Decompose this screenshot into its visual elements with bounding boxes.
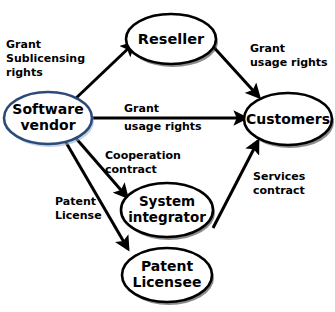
edge-label-vendor-to-customers-line2: usage rights	[124, 120, 202, 133]
edge-label-vendor-to-reseller-line2: Sublicensing	[6, 52, 85, 65]
edge-label-system-integrator-to-customers: Services contract	[253, 170, 306, 197]
edge-label-vendor-to-system-integrator-line2: contract	[105, 163, 157, 176]
diagram-svg: Reseller Customers Software vendor Syste…	[0, 0, 335, 312]
node-reseller[interactable]: Reseller	[126, 14, 218, 67]
node-system-integrator[interactable]: System integrator	[121, 183, 215, 240]
node-customers-label: Customers	[246, 111, 330, 127]
edge-label-vendor-to-patent-licensee: Patent License	[55, 195, 102, 222]
node-system-integrator-label-line2: integrator	[128, 209, 206, 225]
edge-label-vendor-to-reseller-line1: Grant	[6, 38, 41, 51]
edge-label-reseller-to-customers-line1: Grant	[250, 42, 285, 55]
node-patent-licensee-label-line2: Licensee	[133, 274, 202, 290]
edge-label-reseller-to-customers-line2: usage rights	[250, 56, 328, 69]
edge-label-vendor-to-patent-licensee-line1: Patent	[55, 195, 96, 208]
node-patent-licensee[interactable]: Patent Licensee	[122, 248, 214, 305]
node-software-vendor[interactable]: Software vendor	[4, 92, 94, 147]
edge-label-system-integrator-to-customers-line1: Services	[253, 170, 306, 183]
node-patent-licensee-label-line1: Patent	[141, 258, 193, 274]
edge-label-vendor-to-system-integrator-line1: Cooperation	[105, 149, 181, 162]
node-reseller-label: Reseller	[138, 31, 205, 47]
edge-label-vendor-to-reseller: Grant Sublicensing rights	[6, 38, 85, 79]
edge-label-system-integrator-to-customers-line2: contract	[253, 184, 305, 197]
node-software-vendor-label-line2: vendor	[20, 117, 75, 133]
edge-label-reseller-to-customers: Grant usage rights	[250, 42, 328, 69]
node-software-vendor-label-line1: Software	[12, 101, 83, 117]
node-system-integrator-label-line1: System	[139, 193, 195, 209]
edge-label-vendor-to-patent-licensee-line2: License	[55, 209, 102, 222]
edge-system-integrator-to-customers	[213, 141, 258, 228]
edge-label-vendor-to-reseller-line3: rights	[6, 66, 43, 79]
edge-label-vendor-to-customers-line1: Grant	[124, 102, 159, 115]
diagram-canvas: Reseller Customers Software vendor Syste…	[0, 0, 335, 312]
node-customers[interactable]: Customers	[244, 93, 334, 148]
edge-label-vendor-to-system-integrator: Cooperation contract	[105, 149, 181, 176]
